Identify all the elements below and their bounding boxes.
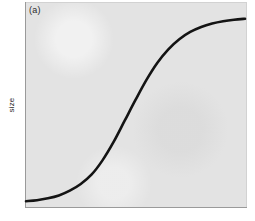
- figure-root: (a) size: [0, 0, 255, 221]
- panel-label: (a): [29, 5, 41, 16]
- y-axis-label: size: [7, 89, 17, 121]
- plot-panel: [25, 2, 247, 208]
- axis-spine-left: [25, 2, 26, 208]
- axis-spine-top: [25, 2, 247, 3]
- axis-spine-bottom: [25, 207, 247, 208]
- axis-spine-right: [246, 2, 247, 208]
